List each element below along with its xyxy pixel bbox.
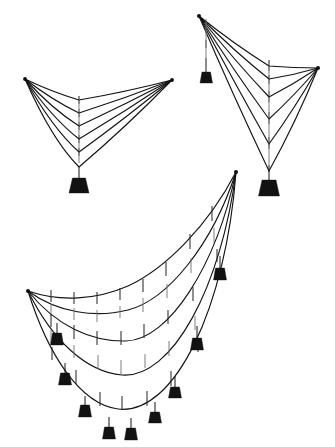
cable-group-top-left bbox=[25, 79, 172, 167]
weight-group-bottom bbox=[51, 268, 227, 440]
central-weight bbox=[69, 178, 89, 193]
cable-6 bbox=[25, 79, 172, 167]
figure-top-left bbox=[23, 77, 174, 193]
cable-6 bbox=[199, 16, 318, 171]
weight-c1 bbox=[125, 428, 138, 440]
cable-1 bbox=[199, 16, 318, 68]
cable-1 bbox=[28, 172, 236, 298]
left-anchor bbox=[197, 14, 201, 18]
figure-bottom bbox=[26, 170, 238, 440]
right-anchor bbox=[316, 66, 320, 70]
right-anchor bbox=[170, 78, 174, 82]
cable-3 bbox=[28, 172, 236, 341]
left-anchor bbox=[23, 77, 27, 81]
figure-top-right bbox=[197, 14, 320, 196]
weight-r3 bbox=[169, 387, 182, 398]
weight-r2 bbox=[191, 338, 204, 350]
cable-2 bbox=[199, 16, 318, 79]
main-weight bbox=[259, 180, 280, 196]
weight-l2 bbox=[59, 373, 72, 385]
left-small-weight bbox=[200, 72, 213, 83]
cable-5 bbox=[25, 79, 172, 152]
cable-group-bottom bbox=[28, 172, 236, 409]
cable-1 bbox=[25, 79, 172, 100]
cable-group-top-right bbox=[199, 16, 318, 171]
funicular-diagram-canvas bbox=[0, 0, 335, 447]
weight-c2 bbox=[103, 427, 116, 439]
weight-r4 bbox=[149, 412, 162, 423]
right-anchor bbox=[234, 170, 238, 174]
weight-l3 bbox=[51, 333, 64, 345]
left-anchor bbox=[26, 289, 30, 293]
weight-r1 bbox=[214, 268, 227, 280]
weight-l1 bbox=[79, 405, 92, 417]
